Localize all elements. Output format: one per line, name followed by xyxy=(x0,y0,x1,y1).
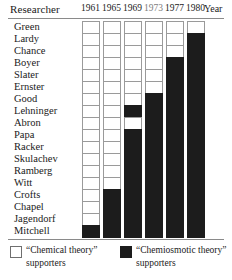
year-column-1973 xyxy=(145,21,163,237)
researcher-label-papa: Papa xyxy=(14,129,34,141)
year-header-1969: 1969 xyxy=(123,3,142,13)
researcher-label-jagendorf: Jagendorf xyxy=(14,213,55,225)
researcher-label-abron: Abron xyxy=(14,117,41,129)
researcher-name-column: GreenLardyChanceBoyerSlaterErnsterGoodLe… xyxy=(0,21,78,237)
year-header-1965: 1965 xyxy=(102,3,121,13)
legend-chemiosmotic-line2: supporters xyxy=(136,258,176,268)
chart-baseline xyxy=(8,239,224,240)
chart-legend: “Chemical theory” supporters “Chemiosmot… xyxy=(0,245,232,279)
column-header-researcher: Researcher xyxy=(10,3,60,15)
year-header-1961: 1961 xyxy=(81,3,100,13)
year-header-1980: 1980 xyxy=(186,3,205,13)
white-square-icon xyxy=(10,246,22,258)
year-column-1961 xyxy=(82,21,100,237)
researcher-label-green: Green xyxy=(14,21,40,33)
researcher-theory-chart: Researcher 196119651969197319771980 Year… xyxy=(0,0,232,280)
researcher-label-mitchell: Mitchell xyxy=(14,225,50,237)
researcher-label-ernster: Ernster xyxy=(14,81,44,93)
year-header-1977: 1977 xyxy=(165,3,184,13)
legend-chemiosmotic-line1: “Chemiosmotic theory” xyxy=(136,245,227,255)
chart-body: GreenLardyChanceBoyerSlaterErnsterGoodLe… xyxy=(0,21,232,239)
researcher-label-lehninger: Lehninger xyxy=(14,105,57,117)
cell-mitchell-1977 xyxy=(166,225,184,238)
researcher-label-racker: Racker xyxy=(14,141,44,153)
researcher-label-slater: Slater xyxy=(14,69,39,81)
year-column-1980 xyxy=(187,21,205,237)
year-header-1973: 1973 xyxy=(144,3,163,13)
researcher-label-lardy: Lardy xyxy=(14,33,39,45)
year-column-1965 xyxy=(103,21,121,237)
chart-header: Researcher 196119651969197319771980 Year xyxy=(0,0,232,19)
cell-mitchell-1973 xyxy=(145,225,163,238)
year-column-1969 xyxy=(124,21,142,237)
researcher-label-chapel: Chapel xyxy=(14,201,44,213)
black-square-icon xyxy=(120,246,132,258)
header-divider xyxy=(8,18,224,19)
cell-mitchell-1969 xyxy=(124,225,142,238)
researcher-label-witt: Witt xyxy=(14,177,32,189)
legend-chemical-line2: supporters xyxy=(26,258,66,268)
researcher-label-boyer: Boyer xyxy=(14,57,40,69)
axis-label-year: Year xyxy=(204,3,222,14)
researcher-label-chance: Chance xyxy=(14,45,46,57)
cell-mitchell-1961 xyxy=(82,225,100,238)
cell-mitchell-1980 xyxy=(187,225,205,238)
year-column-1977 xyxy=(166,21,184,237)
researcher-label-good: Good xyxy=(14,93,37,105)
cell-mitchell-1965 xyxy=(103,225,121,238)
legend-chemical-line1: “Chemical theory” xyxy=(26,245,97,255)
researcher-label-crofts: Crofts xyxy=(14,189,40,201)
researcher-label-skulachev: Skulachev xyxy=(14,153,58,165)
researcher-label-ramberg: Ramberg xyxy=(14,165,52,177)
